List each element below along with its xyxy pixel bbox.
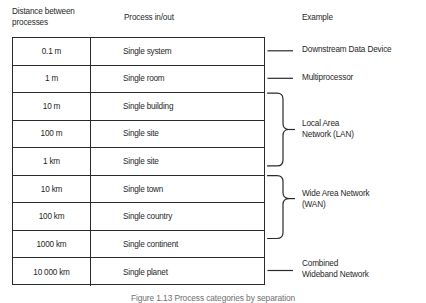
column-header-process: Process in/out <box>124 13 214 24</box>
distance-category-table: 0.1 m Single system 1 m Single room 10 m… <box>12 37 265 285</box>
table-row: 10 m Single building <box>13 93 264 121</box>
cell-process: Single continent <box>91 231 264 258</box>
cell-distance: 10 m <box>13 93 91 120</box>
example-label-wide-area-network: Wide Area Network (WAN) <box>302 189 370 210</box>
table-row: 0.1 m Single system <box>13 38 264 66</box>
example-label-downstream-data-device: Downstream Data Device <box>302 45 392 56</box>
table-row: 1000 km Single continent <box>13 231 264 259</box>
connector-brace-wan <box>268 176 290 239</box>
table-row: 10 000 km Single planet <box>13 258 264 286</box>
table-row: 1 m Single room <box>13 66 264 94</box>
cell-distance: 1 m <box>13 66 91 93</box>
example-label-combined-wideband-network: Combined Wideband Network <box>302 259 369 280</box>
cell-distance: 100 km <box>13 203 91 230</box>
table-row: 100 km Single country <box>13 203 264 231</box>
cell-distance: 1000 km <box>13 231 91 258</box>
cell-distance: 1 km <box>13 148 91 175</box>
cell-distance: 10 000 km <box>13 258 91 286</box>
cell-distance: 0.1 m <box>13 38 91 65</box>
cell-process: Single town <box>91 176 264 203</box>
cell-distance: 10 km <box>13 176 91 203</box>
cell-process: Single country <box>91 203 264 230</box>
cell-process: Single planet <box>91 258 264 286</box>
cell-process: Single building <box>91 93 264 120</box>
connector-brace-lan <box>268 93 290 166</box>
column-header-distance: Distance between processes <box>12 7 100 28</box>
figure-caption: Figure 1.13 Process categories by separa… <box>0 293 426 303</box>
table-row: 10 km Single town <box>13 176 264 204</box>
table-row: 100 m Single site <box>13 121 264 149</box>
cell-process: Single room <box>91 66 264 93</box>
column-header-example: Example <box>302 13 412 24</box>
cell-process: Single system <box>91 38 264 65</box>
cell-process: Single site <box>91 148 264 175</box>
cell-distance: 100 m <box>13 121 91 148</box>
cell-process: Single site <box>91 121 264 148</box>
example-label-local-area-network: Local Area Network (LAN) <box>302 119 354 140</box>
table-row: 1 km Single site <box>13 148 264 176</box>
example-label-multiprocessor: Multiprocessor <box>302 73 353 84</box>
